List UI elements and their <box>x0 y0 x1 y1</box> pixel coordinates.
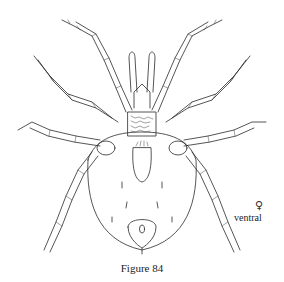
leg-4-left <box>44 152 98 252</box>
female-symbol: ♀ <box>244 199 274 212</box>
leg-1-right <box>152 20 222 112</box>
view-label: ventral <box>234 212 262 223</box>
idiosoma-outline <box>88 132 196 250</box>
leg-3-right <box>184 122 266 146</box>
leg-2-right <box>166 56 250 122</box>
figure-caption: Figure 84 <box>0 262 284 274</box>
mite-illustration <box>0 0 284 282</box>
anal-plate <box>128 220 156 249</box>
leg-3-left <box>18 122 100 146</box>
leg-2-left <box>34 56 118 122</box>
leg-4-right <box>186 152 240 252</box>
leg-1-left <box>62 20 132 112</box>
chelicera-left <box>129 52 137 92</box>
genital-plate <box>133 148 151 182</box>
chelicera-right <box>147 52 155 92</box>
